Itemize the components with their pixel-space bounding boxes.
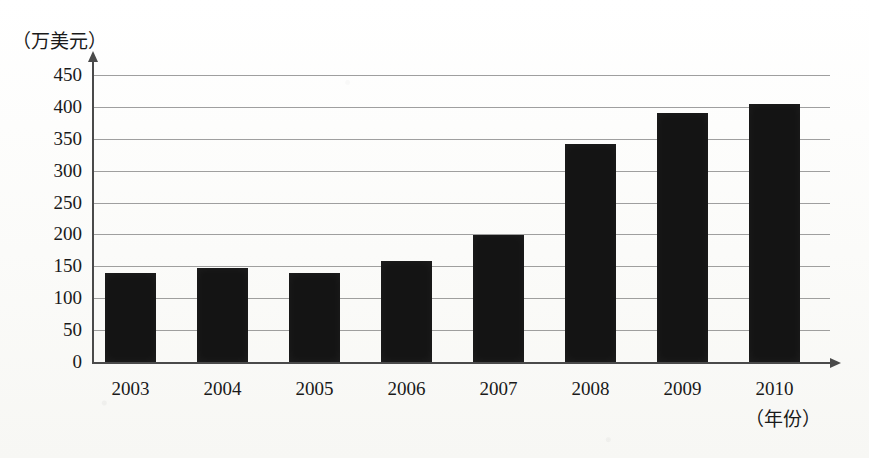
x-axis-tick-label: 2008 (546, 379, 636, 398)
y-axis-tick-label: 250 (24, 193, 82, 212)
bar-2006 (381, 261, 432, 362)
gridline (92, 203, 830, 204)
gridline (92, 234, 830, 235)
x-axis-tick-label: 2006 (362, 379, 452, 398)
bar-2008 (565, 144, 616, 362)
gridline (92, 107, 830, 108)
gridline (92, 171, 830, 172)
x-axis-tick-label: 2010 (730, 379, 820, 398)
x-axis-tick-label: 2003 (86, 379, 176, 398)
y-axis-tick-label: 200 (24, 224, 82, 243)
bar-chart-plot: 0501001502002503003504004502003200420052… (0, 0, 869, 458)
x-axis-unit-label: （年份） (745, 404, 821, 431)
y-axis-tick-label: 50 (24, 320, 82, 339)
gridline (92, 75, 830, 76)
y-axis-tick-label: 350 (24, 129, 82, 148)
y-axis-arrow-icon (88, 51, 98, 62)
x-axis-tick-label: 2009 (638, 379, 728, 398)
bar-2010 (749, 104, 800, 362)
y-axis-tick-label: 150 (24, 256, 82, 275)
x-axis-tick-label: 2005 (270, 379, 360, 398)
x-axis-arrow-icon (830, 358, 841, 368)
x-axis-tick-label: 2007 (454, 379, 544, 398)
gridline (92, 266, 830, 267)
bar-2009 (657, 113, 708, 362)
gridline (92, 139, 830, 140)
bar-2003 (105, 273, 156, 362)
chart-page: （万美元） 0501001502002503003504004502003200… (0, 0, 869, 458)
y-axis-tick-label: 0 (24, 352, 82, 371)
x-axis-tick-label: 2004 (178, 379, 268, 398)
x-axis-line (92, 362, 830, 364)
bar-2007 (473, 235, 524, 362)
y-axis-tick-label: 100 (24, 288, 82, 307)
y-axis-tick-label: 400 (24, 97, 82, 116)
bar-2005 (289, 273, 340, 362)
bar-2004 (197, 268, 248, 362)
y-axis-line (92, 62, 94, 363)
y-axis-tick-label: 450 (24, 65, 82, 84)
y-axis-tick-label: 300 (24, 161, 82, 180)
